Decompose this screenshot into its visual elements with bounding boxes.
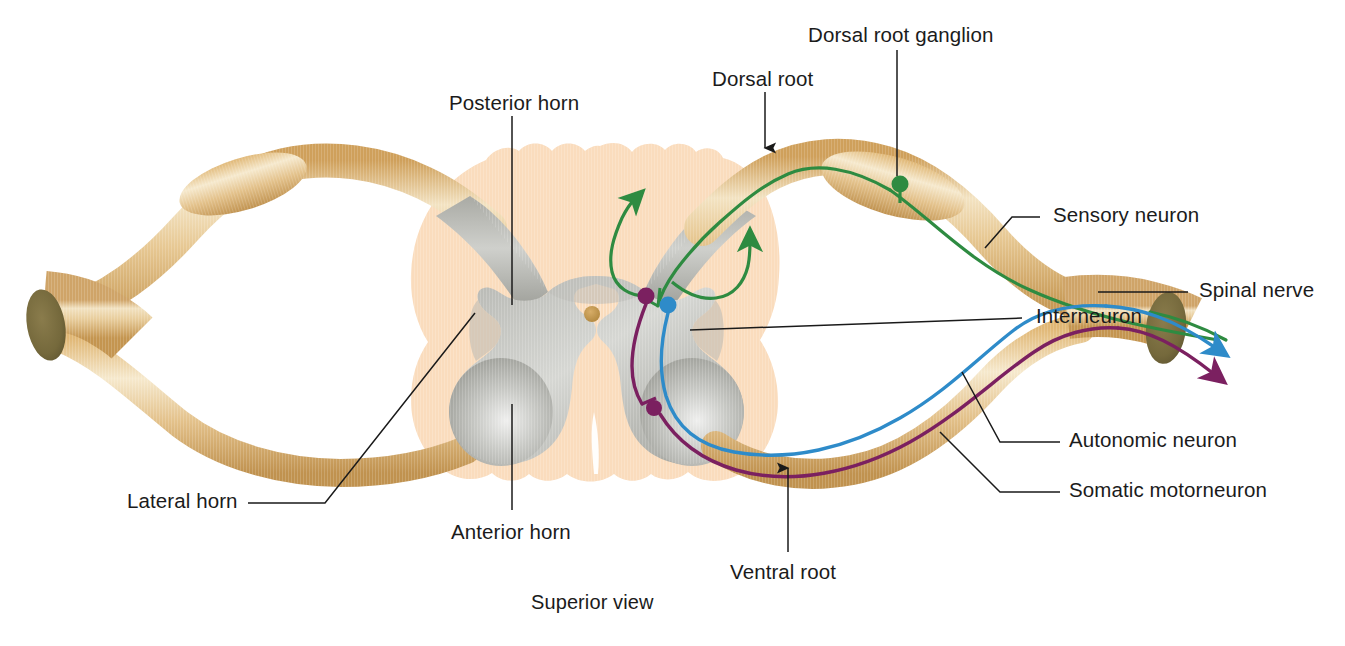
label-dorsal-root-ganglion: Dorsal root ganglion [808,25,993,46]
label-interneuron: Interneuron [1036,306,1142,327]
figure-canvas: Dorsal root ganglion Dorsal root Posteri… [0,0,1345,646]
ventral-root-left [60,338,466,473]
label-sensory-neuron: Sensory neuron [1053,205,1199,226]
label-autonomic-neuron: Autonomic neuron [1069,430,1237,451]
label-posterior-horn: Posterior horn [449,93,579,114]
label-anterior-horn: Anterior horn [451,522,571,543]
autonomic-cell-body [660,297,677,314]
sensory-cell-body [892,176,909,193]
label-lateral-horn: Lateral horn [127,491,238,512]
central-canal [584,306,600,322]
label-spinal-nerve: Spinal nerve [1199,280,1314,301]
motor-cell-body-upper [638,288,655,305]
label-ventral-root: Ventral root [730,562,836,583]
caption-superior-view: Superior view [531,592,653,612]
label-somatic-motorneuron: Somatic motorneuron [1069,480,1267,501]
label-dorsal-root: Dorsal root [712,69,813,90]
anatomy-illustration [0,0,1345,646]
